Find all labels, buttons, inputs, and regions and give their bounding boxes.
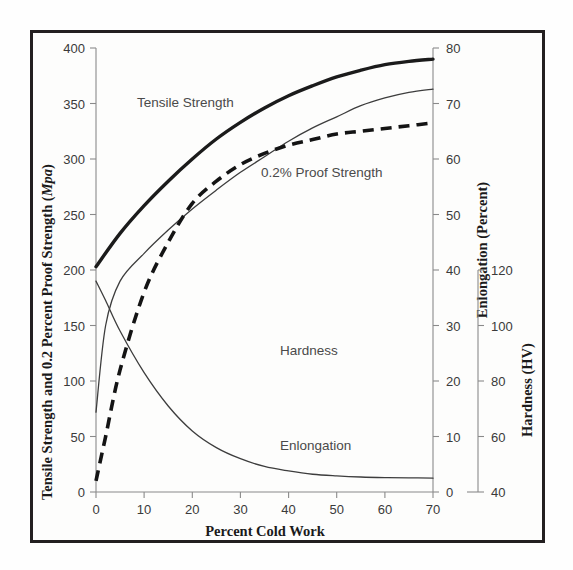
x-tick-label: 0 [92,502,99,517]
elongation-tick-label: 20 [446,374,460,389]
hardness-tick-label: 60 [491,430,505,445]
curve-enlongation [96,281,433,478]
x-tick-label: 70 [426,502,440,517]
curve-proof-strength [96,89,433,412]
elongation-tick-label: 10 [446,430,460,445]
series-label-tensile-strength: Tensile Strength [137,95,234,110]
hardness-tick-label: 100 [491,319,513,334]
x-axis-title: Percent Cold Work [205,523,325,539]
elongation-tick-label: 0 [446,485,453,500]
left-tick-label: 50 [71,430,85,445]
series-annotations: Tensile Strength 0.2% Proof Strength Har… [137,95,383,453]
series-label-enlongation: Enlongation [280,438,351,453]
left-tick-label: 200 [63,263,85,278]
figure-root: 400 350 300 250 200 150 100 50 0 Tensile… [0,0,573,570]
elongation-tick-label: 70 [446,97,460,112]
hardness-tick-label: 120 [491,263,513,278]
left-tick-label: 400 [63,41,85,56]
left-tick-label: 150 [63,319,85,334]
left-tick-label: 300 [63,152,85,167]
x-tick-label: 60 [378,502,392,517]
chart-canvas: 400 350 300 250 200 150 100 50 0 Tensile… [0,0,573,570]
x-tick-label: 10 [137,502,151,517]
x-tick-label: 40 [281,502,295,517]
x-tick-label: 30 [233,502,247,517]
x-axis-ticks [96,492,433,498]
elongation-tick-label: 30 [446,319,460,334]
elongation-tick-label: 40 [446,263,460,278]
elongation-tick-label: 80 [446,41,460,56]
y-axis-title: Tensile Strength and 0.2 Percent Proof S… [39,164,56,500]
left-tick-label: 0 [78,485,85,500]
series-curves [96,59,433,481]
left-axis-ticks [90,48,96,492]
elongation-tick-label: 50 [446,208,460,223]
left-tick-label: 100 [63,374,85,389]
x-tick-label: 20 [185,502,199,517]
left-tick-label: 250 [63,208,85,223]
hardness-tick-label: 40 [491,485,505,500]
left-tick-label: 350 [63,97,85,112]
hardness-tick-label: 80 [491,374,505,389]
x-axis-group: 0 10 20 30 40 50 60 70 Percent Cold Work [92,492,440,539]
y-axis-title-part-c: ) [39,164,56,169]
y-axis-title-unit: Mpa [39,169,55,197]
curve-tensile-strength [96,59,433,267]
series-label-proof-strength: 0.2% Proof Strength [261,165,383,180]
elongation-axis-ticks [433,48,439,492]
y-axis-title-part-a: Tensile Strength and 0.2 Percent Proof S… [39,196,56,500]
elongation-axis-title: Enlongation (Percent) [474,182,491,318]
left-axis-group: 400 350 300 250 200 150 100 50 0 Tensile… [39,41,96,500]
hardness-axis-title: Hardness (HV) [519,343,536,437]
series-label-hardness: Hardness [280,343,338,358]
x-tick-label: 50 [329,502,343,517]
elongation-tick-label: 60 [446,152,460,167]
